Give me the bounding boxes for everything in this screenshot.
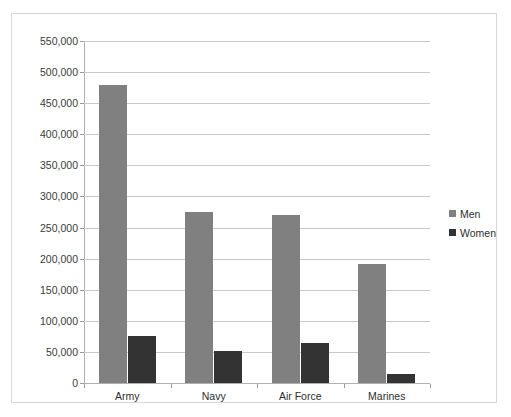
bar-air-force-women xyxy=(301,343,329,383)
y-axis-tick-label: 50,000 xyxy=(16,346,78,358)
chart-legend: MenWomen xyxy=(449,204,509,242)
gridline xyxy=(84,259,430,260)
y-axis-tick-label: 550,000 xyxy=(16,35,78,47)
y-axis-tick-label: 400,000 xyxy=(16,128,78,140)
legend-label: Women xyxy=(460,227,496,239)
y-axis-tick-label: 100,000 xyxy=(16,315,78,327)
y-axis-tick-label: 500,000 xyxy=(16,66,78,78)
bar-army-men xyxy=(99,85,127,383)
legend-swatch-icon xyxy=(449,229,456,236)
y-axis-tick-mark xyxy=(80,321,84,322)
gridline xyxy=(84,41,430,42)
y-axis-tick-mark xyxy=(80,290,84,291)
y-axis-tick-label: 0 xyxy=(16,377,78,389)
x-axis-tick-mark xyxy=(257,384,258,388)
legend-label: Men xyxy=(460,208,480,220)
gridline xyxy=(84,228,430,229)
y-axis-tick-mark xyxy=(80,383,84,384)
legend-swatch-icon xyxy=(449,210,456,217)
x-axis-tick-mark xyxy=(84,384,85,388)
legend-item-men[interactable]: Men xyxy=(449,204,509,223)
y-axis-tick-labels: 050,000100,000150,000200,000250,000300,0… xyxy=(12,41,78,383)
y-axis-tick-label: 300,000 xyxy=(16,190,78,202)
x-axis-label-air-force: Air Force xyxy=(279,390,322,402)
y-axis-tick-mark xyxy=(80,72,84,73)
y-axis-tick-label: 150,000 xyxy=(16,284,78,296)
x-axis-tick-mark xyxy=(344,384,345,388)
plot-area xyxy=(84,41,430,383)
y-axis-tick-mark xyxy=(80,259,84,260)
gridline xyxy=(84,103,430,104)
bar-marines-men xyxy=(358,264,386,383)
bar-navy-men xyxy=(185,212,213,383)
y-axis-tick-mark xyxy=(80,228,84,229)
bar-army-women xyxy=(128,336,156,383)
y-axis-tick-mark xyxy=(80,41,84,42)
x-axis-tick-mark xyxy=(430,384,431,388)
y-axis-tick-label: 450,000 xyxy=(16,97,78,109)
legend-item-women[interactable]: Women xyxy=(449,223,509,242)
gridline xyxy=(84,134,430,135)
y-axis-tick-label: 250,000 xyxy=(16,222,78,234)
x-axis-tick-mark xyxy=(171,384,172,388)
x-axis-label-marines: Marines xyxy=(368,390,405,402)
gridline xyxy=(84,72,430,73)
bar-navy-women xyxy=(214,351,242,383)
y-axis-tick-mark xyxy=(80,352,84,353)
y-axis-tick-mark xyxy=(80,134,84,135)
y-axis-tick-label: 350,000 xyxy=(16,159,78,171)
y-axis-tick-mark xyxy=(80,165,84,166)
bar-marines-women xyxy=(387,374,415,383)
gridline xyxy=(84,196,430,197)
bar-air-force-men xyxy=(272,215,300,383)
y-axis-tick-mark xyxy=(80,103,84,104)
x-axis-label-army: Army xyxy=(115,390,140,402)
y-axis-tick-mark xyxy=(80,196,84,197)
x-axis-label-navy: Navy xyxy=(202,390,226,402)
chart-frame: 050,000100,000150,000200,000250,000300,0… xyxy=(11,13,497,403)
gridline xyxy=(84,165,430,166)
y-axis-tick-label: 200,000 xyxy=(16,253,78,265)
